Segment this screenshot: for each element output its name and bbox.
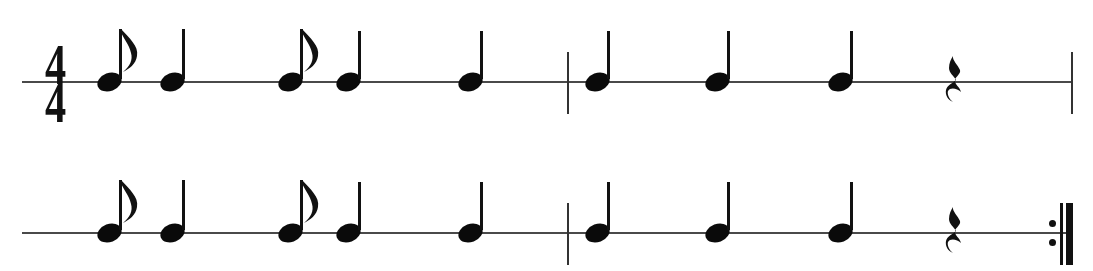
repeat-thick-line (1066, 203, 1073, 265)
staff-system-2 (0, 0, 1093, 271)
repeat-dot-upper (1049, 220, 1056, 227)
eighth-flag-icon (301, 179, 323, 225)
note-stem (727, 182, 730, 230)
note-stem (480, 182, 483, 230)
eighth-flag-icon (120, 179, 142, 225)
note-stem (358, 182, 361, 230)
repeat-dot-lower (1049, 239, 1056, 246)
bar-line (567, 203, 569, 265)
quarter-rest-icon (945, 206, 969, 258)
repeat-thin-line (1060, 203, 1063, 265)
note-stem (607, 182, 610, 230)
music-sheet: 4 4 (0, 0, 1093, 271)
note-stem (182, 180, 185, 230)
note-stem (850, 182, 853, 230)
